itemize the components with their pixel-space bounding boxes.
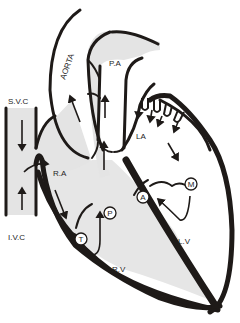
label-pulmonary-artery: P.A <box>109 59 122 68</box>
valve-pulmonary: P <box>104 207 116 219</box>
svg-text:A: A <box>140 193 146 202</box>
pv-arrow-4 <box>174 122 178 132</box>
valve-tricuspid: T <box>75 233 87 245</box>
label-ra: R.A <box>53 169 67 178</box>
valve-mitral: M <box>185 178 197 190</box>
label-la: LA <box>136 132 146 141</box>
svg-text:M: M <box>188 180 195 189</box>
label-lv: L.V <box>178 237 191 246</box>
pv-arrow-3 <box>158 116 162 126</box>
label-rv: R.V <box>112 265 126 274</box>
label-svc: S.V.C <box>8 97 28 106</box>
label-aorta: AORTA <box>58 52 76 81</box>
heart-diagram: AORTA P.A S.V.C R.A I.V.C LA L.V R.V T P… <box>0 0 240 323</box>
label-ivc: I.V.C <box>8 233 25 242</box>
valve-aortic: A <box>137 191 149 203</box>
la-to-lv-arrow <box>168 143 178 160</box>
svg-text:P: P <box>107 209 112 218</box>
svg-text:T: T <box>79 235 84 244</box>
pv-arrow-2 <box>150 110 152 122</box>
